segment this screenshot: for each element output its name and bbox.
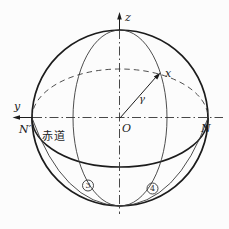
figure-canvas: 3 4 z y N′ N O x γ 赤道 <box>0 0 229 229</box>
region-4-label: 4 <box>150 184 155 193</box>
y-axis-arrowhead-icon <box>13 115 21 120</box>
x-vector-line <box>120 77 156 118</box>
region-3-label: 3 <box>85 181 90 190</box>
equator-label: 赤道 <box>42 129 66 143</box>
point-label-n-prime: N′ <box>18 123 32 136</box>
z-axis-arrowhead-icon <box>117 12 122 20</box>
axis-label-z: z <box>124 11 131 24</box>
point-label-n: N <box>200 122 211 135</box>
n-pole-arc <box>120 118 208 206</box>
vector-label-x: x <box>165 67 172 80</box>
origin-label: O <box>122 122 131 135</box>
equator-back-arc <box>32 69 208 118</box>
sphere-diagram: 3 4 z y N′ N O x γ 赤道 <box>0 0 229 229</box>
axis-label-y: y <box>13 100 21 113</box>
region-badge-3: 3 <box>83 180 94 191</box>
angle-label-gamma: γ <box>139 93 145 104</box>
